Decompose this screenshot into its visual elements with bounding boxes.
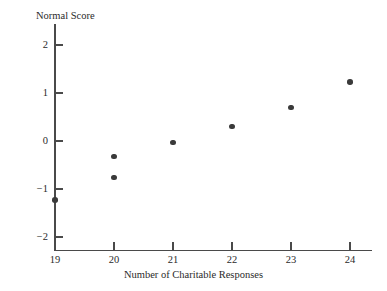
data-point: [229, 124, 235, 130]
x-axis-title: Number of Charitable Responses: [0, 269, 387, 281]
data-point: [288, 105, 294, 111]
data-point: [111, 175, 117, 181]
data-point: [170, 140, 176, 146]
normal-probability-plot: Normal Score 210−1−2 192021222324 Number…: [0, 0, 387, 291]
data-point: [52, 197, 58, 203]
plot-area: [0, 0, 387, 291]
data-point: [111, 154, 117, 160]
data-point: [347, 79, 353, 85]
